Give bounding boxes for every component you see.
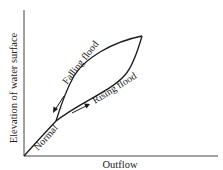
x-axis-label: Outflow: [103, 159, 138, 170]
normal-label: Normal: [31, 122, 60, 152]
falling-flood-arrow: [53, 96, 64, 113]
y-axis-label: Elevation of water surface: [8, 32, 19, 143]
falling-flood-label: Falling flood: [60, 39, 101, 87]
diagram-canvas: Elevation of water surface Outflow Norma…: [0, 0, 223, 170]
rising-flood-label: Rising flood: [90, 70, 138, 106]
